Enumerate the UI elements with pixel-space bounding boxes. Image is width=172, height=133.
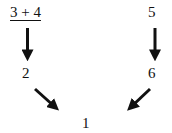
node-top-left: 3 + 4 [10, 5, 41, 20]
arrow-diagonal-left-icon [35, 89, 55, 107]
node-top-right: 5 [148, 5, 156, 20]
node-mid-right: 6 [148, 66, 156, 81]
node-bottom: 1 [82, 116, 90, 131]
node-mid-left: 2 [22, 66, 30, 81]
arrow-diagonal-right-icon [131, 89, 150, 107]
